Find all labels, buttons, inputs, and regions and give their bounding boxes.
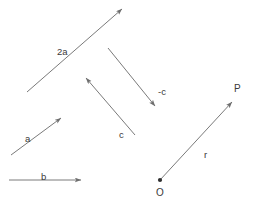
vector-arrow-r bbox=[160, 102, 232, 180]
vector-label-r: r bbox=[204, 150, 207, 160]
point-label-o: O bbox=[156, 188, 164, 198]
vector-label-c: c bbox=[119, 130, 124, 140]
vector-arrow-c bbox=[86, 78, 135, 135]
vector-arrow-a bbox=[11, 118, 61, 155]
vector-label-b: b bbox=[41, 172, 46, 182]
vector-arrow-minus-c bbox=[108, 48, 155, 106]
vector-label-minus-c: -c bbox=[158, 87, 166, 97]
point-label-p: P bbox=[234, 84, 241, 94]
vector-canvas bbox=[0, 0, 254, 204]
point-marker-o bbox=[158, 178, 162, 182]
vector-arrow-2a bbox=[27, 9, 122, 92]
vector-diagram: 2aabc-crOP bbox=[0, 0, 254, 204]
point-marker-group bbox=[158, 178, 162, 182]
vector-label-a: a bbox=[25, 134, 30, 144]
vector-label-2a: 2a bbox=[57, 47, 68, 57]
vector-arrow-group bbox=[9, 9, 232, 180]
